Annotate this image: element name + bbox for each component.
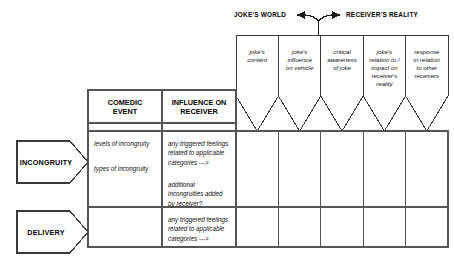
table-header-influence-on-receiver: INFLUENCE ON RECEIVER: [162, 98, 236, 117]
table-header-comedic-event: COMEDIC EVENT: [88, 98, 162, 117]
matrix-cell-incongruity-critical-awareness[interactable]: [321, 131, 363, 207]
cell-incongruity-comedic-event-2: types of incongruity: [94, 164, 160, 173]
matrix-cell-incongruity-jokes-relation[interactable]: [363, 131, 405, 207]
matrix-cell-delivery-response-relation[interactable]: [406, 207, 448, 247]
arrow-head-right-icon: [332, 11, 341, 19]
funnel-column-label-jokes-content: joke's content: [236, 48, 278, 64]
diagram-canvas: JOKE'S WORLD RECEIVER'S REALITY: [0, 0, 454, 261]
matrix-cell-delivery-jokes-relation[interactable]: [363, 207, 405, 247]
matrix-cell-delivery-jokes-influence[interactable]: [278, 207, 320, 247]
row-tag-incongruity: INCONGRUITY: [17, 158, 75, 167]
arrow-head-left-icon: [296, 11, 305, 19]
matrix-cell-delivery-critical-awareness[interactable]: [321, 207, 363, 247]
funnel-column-label-critical-awareness: critical awareness of joke: [321, 48, 363, 72]
receivers-reality-label: RECEIVER'S REALITY: [346, 12, 418, 18]
matrix-cell-incongruity-jokes-influence[interactable]: [278, 131, 320, 207]
bidirectional-arrow-icon: [304, 15, 333, 35]
cell-incongruity-comedic-event-1: levels of incongruity: [94, 139, 160, 148]
cell-delivery-influence-1: any triggered feelings related to applic…: [168, 215, 234, 243]
funnel-column-label-jokes-influence: joke's influence on vehicle: [278, 48, 320, 72]
funnel-column-label-response-relation: response in relation to other receivers: [406, 48, 448, 80]
jokes-world-label: JOKE'S WORLD: [234, 12, 286, 18]
funnel-column-label-jokes-relation: joke's relation to / impact on receiver'…: [363, 48, 405, 88]
matrix-cell-delivery-jokes-content[interactable]: [236, 207, 278, 247]
row-tag-delivery: DELIVERY: [17, 228, 75, 237]
matrix-cell-incongruity-jokes-content[interactable]: [236, 131, 278, 207]
matrix-cell-incongruity-response-relation[interactable]: [406, 131, 448, 207]
cell-incongruity-influence-1: any triggered feelings related to applic…: [168, 139, 234, 167]
cell-incongruity-influence-2: additional incongruities added by receiv…: [168, 180, 234, 208]
cell-delivery-comedic-event: [88, 207, 162, 247]
